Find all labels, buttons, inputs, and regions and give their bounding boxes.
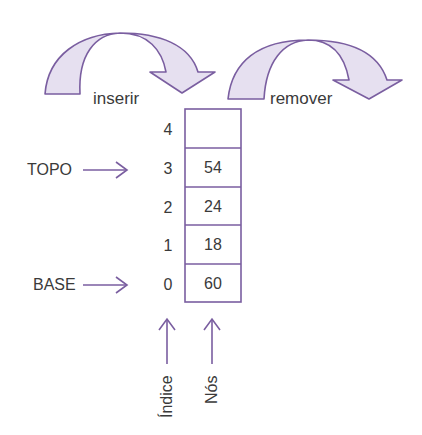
index-axis-label: Índice xyxy=(158,375,176,418)
index-up-arrow-icon xyxy=(159,319,175,364)
index-3: 3 xyxy=(158,160,178,178)
top-pointer-arrow-icon xyxy=(83,162,127,178)
index-1: 1 xyxy=(158,237,178,255)
stack-node-4 xyxy=(185,110,241,148)
nodes-up-arrow-icon xyxy=(204,319,220,364)
remove-label: remover xyxy=(270,90,332,107)
stack-node-0: 60 xyxy=(185,265,241,303)
index-4: 4 xyxy=(158,121,178,139)
top-pointer-label: TOPO xyxy=(27,162,72,178)
stack-node-2: 24 xyxy=(185,188,241,226)
stack-node-1: 18 xyxy=(185,226,241,264)
index-0: 0 xyxy=(158,276,178,294)
insert-arrow-icon xyxy=(45,33,215,94)
index-2: 2 xyxy=(158,199,178,217)
insert-label: inserir xyxy=(93,90,139,107)
base-pointer-label: BASE xyxy=(33,277,76,293)
nodes-axis-label: Nós xyxy=(203,376,221,404)
base-pointer-arrow-icon xyxy=(83,277,127,293)
stack-node-3: 54 xyxy=(185,149,241,187)
